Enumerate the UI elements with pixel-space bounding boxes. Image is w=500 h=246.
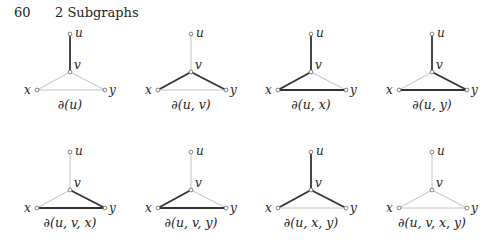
subgraph-6: uvxy∂(u, v, y) [131, 138, 251, 246]
vertex-y [344, 88, 348, 92]
vertex-label-u: u [196, 27, 204, 39]
vertex-label-y: y [350, 202, 357, 214]
vertex-x [35, 206, 39, 210]
vertex-label-x: x [145, 84, 152, 96]
edge-vy-highlighted [191, 72, 226, 90]
vertex-label-y: y [230, 84, 237, 96]
vertex-y [465, 206, 469, 210]
vertex-x [276, 88, 280, 92]
vertex-label-u: u [437, 145, 445, 157]
vertex-u [430, 150, 434, 154]
subgraph-4: uvxy∂(u, y) [372, 20, 492, 135]
vertex-y [465, 88, 469, 92]
vertex-u [68, 150, 72, 154]
vertex-v [430, 70, 434, 74]
vertex-label-v: v [436, 177, 443, 189]
vertex-u [309, 150, 313, 154]
edge-vy [191, 190, 226, 208]
chapter-title: 2 Subgraphs [55, 5, 139, 20]
vertex-x [156, 206, 160, 210]
vertex-label-y: y [109, 202, 116, 214]
edge-vx [37, 72, 70, 90]
vertex-u [68, 32, 72, 36]
vertex-u [309, 32, 313, 36]
edge-vx [399, 190, 432, 208]
edge-vx-highlighted [278, 72, 311, 90]
vertex-label-v: v [74, 59, 81, 71]
edge-vx [399, 72, 432, 90]
vertex-label-x: x [386, 202, 393, 214]
vertex-u [430, 32, 434, 36]
vertex-label-u: u [437, 27, 445, 39]
vertex-label-x: x [24, 84, 31, 96]
graph-caption: ∂(u, v) [131, 97, 251, 112]
vertex-x [35, 88, 39, 92]
vertex-y [224, 206, 228, 210]
vertex-label-u: u [316, 145, 324, 157]
vertex-label-v: v [195, 177, 202, 189]
vertex-y [344, 206, 348, 210]
vertex-label-u: u [75, 145, 83, 157]
edge-vx [37, 190, 70, 208]
graph-caption: ∂(u, y) [372, 97, 492, 112]
vertex-u [189, 32, 193, 36]
vertex-label-x: x [145, 202, 152, 214]
graph-caption: ∂(u, x, y) [251, 215, 371, 230]
vertex-x [397, 206, 401, 210]
subgraph-1: uvxy∂(u) [10, 20, 130, 135]
graph-caption: ∂(u, v, y) [131, 215, 251, 230]
vertex-v [309, 70, 313, 74]
vertex-label-x: x [386, 84, 393, 96]
graph-caption: ∂(u, x) [251, 97, 371, 112]
vertex-label-v: v [315, 59, 322, 71]
vertex-v [189, 70, 193, 74]
edge-vy-highlighted [311, 190, 346, 208]
vertex-y [103, 88, 107, 92]
vertex-label-u: u [316, 27, 324, 39]
vertex-label-v: v [195, 59, 202, 71]
vertex-label-y: y [109, 84, 116, 96]
vertex-v [309, 188, 313, 192]
graph-caption: ∂(u) [10, 97, 130, 112]
graph-caption: ∂(u, v, x) [10, 215, 130, 230]
edge-vx-highlighted [158, 190, 191, 208]
subgraph-5: uvxy∂(u, v, x) [10, 138, 130, 246]
vertex-label-y: y [471, 202, 478, 214]
vertex-label-y: y [471, 84, 478, 96]
subgraph-2: uvxy∂(u, v) [131, 20, 251, 135]
subgraph-8: uvxy∂(u, v, x, y) [372, 138, 492, 246]
page-number: 60 [14, 5, 31, 20]
vertex-label-x: x [24, 202, 31, 214]
edge-vx-highlighted [158, 72, 191, 90]
vertex-label-u: u [196, 145, 204, 157]
vertex-label-v: v [74, 177, 81, 189]
vertex-label-v: v [315, 177, 322, 189]
vertex-label-u: u [75, 27, 83, 39]
vertex-y [224, 88, 228, 92]
vertex-label-x: x [265, 202, 272, 214]
vertex-y [103, 206, 107, 210]
vertex-v [68, 188, 72, 192]
vertex-x [397, 88, 401, 92]
vertex-label-y: y [350, 84, 357, 96]
edge-vy [311, 72, 346, 90]
vertex-label-y: y [230, 202, 237, 214]
edge-vy-highlighted [432, 72, 467, 90]
subgraph-7: uvxy∂(u, x, y) [251, 138, 371, 246]
vertex-v [430, 188, 434, 192]
vertex-label-x: x [265, 84, 272, 96]
edge-vy [70, 72, 105, 90]
edge-vy [432, 190, 467, 208]
edge-vx-highlighted [278, 190, 311, 208]
vertex-x [156, 88, 160, 92]
vertex-v [189, 188, 193, 192]
graph-caption: ∂(u, v, x, y) [372, 215, 492, 230]
edge-vy-highlighted [70, 190, 105, 208]
vertex-u [189, 150, 193, 154]
vertex-v [68, 70, 72, 74]
vertex-x [276, 206, 280, 210]
vertex-label-v: v [436, 59, 443, 71]
subgraph-3: uvxy∂(u, x) [251, 20, 371, 135]
